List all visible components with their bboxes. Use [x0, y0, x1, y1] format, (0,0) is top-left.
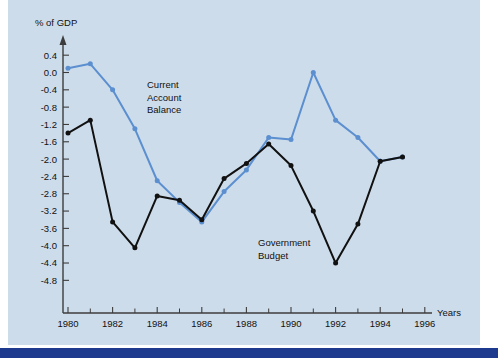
data-point — [132, 126, 137, 131]
data-point — [155, 193, 160, 198]
y-tick-label: -4.0 — [41, 240, 57, 251]
data-point — [110, 87, 115, 92]
y-tick-label: -0.8 — [41, 102, 57, 113]
y-tick-label: -1.2 — [41, 119, 57, 130]
series-government-budget — [66, 118, 406, 266]
x-tick-label: 1996 — [414, 318, 435, 329]
annotation-line: Current — [147, 79, 179, 90]
x-tick-label: 1994 — [370, 318, 391, 329]
y-tick-label: 0.4 — [44, 50, 57, 61]
y-axis-title: % of GDP — [35, 17, 77, 28]
y-tick-label: -2.0 — [41, 154, 57, 165]
series-layer — [66, 61, 406, 265]
x-tick-label: 1980 — [57, 318, 78, 329]
data-point — [311, 209, 316, 214]
data-point — [88, 61, 93, 66]
series-polyline — [68, 120, 403, 263]
data-point — [244, 167, 249, 172]
x-axis: 198019821984198619881990199219941996 — [57, 307, 435, 329]
x-axis-title: Years — [437, 307, 461, 318]
data-point — [222, 176, 227, 181]
series-polyline — [68, 64, 403, 222]
data-point — [266, 135, 271, 140]
y-tick-label: -4.8 — [41, 275, 57, 286]
data-point — [199, 217, 204, 222]
y-tick-label: -3.2 — [41, 205, 57, 216]
chart-figure: 0.40.0-0.4-0.8-1.2-1.6-2.0-2.4-2.8-3.2-3… — [0, 0, 498, 358]
x-tick-label: 1982 — [102, 318, 123, 329]
annotation-line: Account — [147, 92, 182, 103]
annotation-layer: CurrentAccountBalanceGovernmentBudget — [147, 79, 311, 261]
y-tick-label: 0.0 — [44, 67, 57, 78]
data-point — [66, 66, 71, 71]
data-point — [244, 161, 249, 166]
data-point — [110, 219, 115, 224]
annotation-current-account-balance: CurrentAccountBalance — [147, 79, 182, 115]
line-chart-plot: 0.40.0-0.4-0.8-1.2-1.6-2.0-2.4-2.8-3.2-3… — [0, 0, 498, 358]
data-point — [177, 198, 182, 203]
x-tick-label: 1984 — [147, 318, 168, 329]
y-tick-label: -2.4 — [41, 171, 57, 182]
data-point — [132, 245, 137, 250]
series-current-account-balance — [66, 61, 406, 224]
data-point — [155, 178, 160, 183]
x-tick-label: 1992 — [325, 318, 346, 329]
data-point — [289, 163, 294, 168]
data-point — [378, 159, 383, 164]
annotation-line: Balance — [147, 104, 181, 115]
data-point — [400, 154, 405, 159]
y-tick-label: -3.6 — [41, 223, 57, 234]
x-tick-label: 1988 — [236, 318, 257, 329]
y-tick-label: -4.4 — [41, 257, 57, 268]
x-tick-label: 1986 — [191, 318, 212, 329]
x-tick-label: 1990 — [280, 318, 301, 329]
data-point — [88, 118, 93, 123]
annotation-line: Budget — [258, 250, 288, 261]
data-point — [266, 141, 271, 146]
y-axis: 0.40.0-0.4-0.8-1.2-1.6-2.0-2.4-2.8-3.2-3… — [41, 35, 69, 313]
data-point — [333, 118, 338, 123]
data-point — [222, 189, 227, 194]
data-point — [355, 135, 360, 140]
data-point — [66, 131, 71, 136]
annotation-line: Government — [258, 237, 311, 248]
y-tick-label: -0.4 — [41, 84, 57, 95]
y-tick-label: -2.8 — [41, 188, 57, 199]
y-tick-label: -1.6 — [41, 136, 57, 147]
data-point — [289, 137, 294, 142]
data-point — [333, 261, 338, 266]
data-point — [311, 70, 316, 75]
data-point — [355, 222, 360, 227]
annotation-government-budget: GovernmentBudget — [258, 237, 311, 261]
